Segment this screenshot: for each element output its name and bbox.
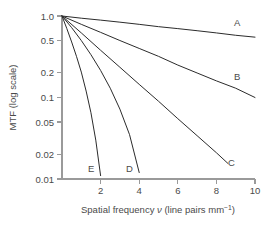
x-axis-title: Spatial frequency ν (line pairs mm−1)	[81, 204, 235, 216]
curve-label-e: E	[88, 163, 94, 174]
y-tick-label-1: 1.0	[41, 11, 54, 22]
x-tick-label-2: 2	[98, 185, 103, 196]
x-tick-label-6: 6	[175, 185, 180, 196]
data-curve-b	[62, 16, 255, 98]
x-tick-label-8: 8	[214, 185, 219, 196]
x-axis-title-main: Spatial frequency	[81, 204, 155, 215]
y-tick-label-4: 0.1	[41, 92, 54, 103]
x-tick-label-10: 10	[250, 185, 261, 196]
y-tick-label-5: 0.05	[36, 117, 55, 128]
curve-label-d: D	[126, 163, 133, 174]
x-axis-title-close: )	[232, 204, 235, 215]
x-axis-ticks	[101, 179, 255, 184]
curve-label-a: A	[234, 17, 241, 28]
y-tick-label-2: 0.5	[41, 35, 54, 46]
y-axis-ticks	[57, 16, 62, 179]
curve-label-c: C	[228, 157, 235, 168]
x-axis-title-units: (line pairs mm	[164, 204, 224, 215]
x-tick-label-4: 4	[137, 185, 142, 196]
data-curve-c	[62, 16, 228, 163]
y-tick-label-3: 0.2	[41, 67, 54, 78]
data-curve-d	[62, 16, 139, 173]
y-axis-title: MTF (log scale)	[7, 65, 18, 131]
mtf-chart-figure: 1.0 0.5 0.2 0.1 0.05 0.02 0.01 2 4 6 8 1…	[0, 0, 268, 225]
y-tick-label-6: 0.02	[36, 149, 55, 160]
data-curve-a	[62, 16, 255, 37]
curve-label-b: B	[234, 71, 240, 82]
chart-canvas: 1.0 0.5 0.2 0.1 0.05 0.02 0.01 2 4 6 8 1…	[0, 0, 268, 225]
y-tick-label-7: 0.01	[36, 174, 55, 185]
